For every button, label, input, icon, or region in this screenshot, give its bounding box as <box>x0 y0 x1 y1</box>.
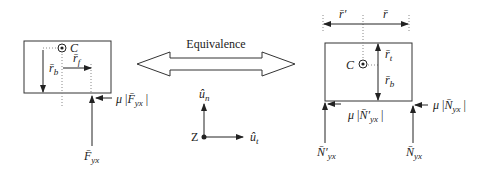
left-center-dot <box>60 46 63 49</box>
left-rb-label: r̄b <box>49 61 59 77</box>
equivalence-label: Equivalence <box>186 37 245 51</box>
left-body: C r̄b r̄f μ |F̄yx | F̄yx <box>24 41 148 165</box>
right-left-normal-label: N̄′yx <box>316 145 336 161</box>
tangent-axis-label: ût <box>250 130 259 146</box>
origin-dot <box>202 135 207 140</box>
equivalence-diagram: C r̄b r̄f μ |F̄yx | F̄yx Equivalence Z û… <box>0 0 496 176</box>
right-center-label: C <box>346 58 355 72</box>
coordinate-axes: Z ûn ût <box>191 87 259 146</box>
right-rb-label: r̄b <box>385 73 395 89</box>
diagram-svg: C r̄b r̄f μ |F̄yx | F̄yx Equivalence Z û… <box>0 0 496 176</box>
normal-axis-label: ûn <box>199 87 210 103</box>
left-body-box <box>24 41 111 93</box>
right-rt-label: r̄t <box>385 47 393 63</box>
right-right-normal-label: N̄yx <box>405 145 422 161</box>
origin-label: Z <box>191 130 198 144</box>
right-right-friction-label: μ |N̄yx | <box>432 98 466 114</box>
right-r-label: r̄ <box>383 7 388 21</box>
left-friction-label: μ |F̄yx | <box>115 92 148 108</box>
left-rf-label: r̄f <box>73 51 82 67</box>
right-body-box <box>325 43 412 101</box>
right-left-friction-label: μ |N̄′yx | <box>347 108 383 124</box>
equivalence-arrow: Equivalence <box>137 37 295 76</box>
right-center-dot <box>361 62 364 65</box>
left-normal-label: F̄yx <box>83 149 99 165</box>
double-arrow-icon <box>137 52 295 76</box>
right-r-prime-label: r̄′ <box>339 7 347 21</box>
right-body: r̄′ r̄ C r̄t r̄b μ |N̄′yx | μ |N̄yx | N̄… <box>316 7 466 161</box>
